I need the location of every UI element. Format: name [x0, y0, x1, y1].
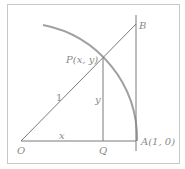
label-y: y	[94, 94, 101, 105]
label-x: x	[59, 130, 65, 141]
label-Q: Q	[99, 145, 107, 156]
label-OP-length: 1	[56, 92, 62, 103]
label-O: O	[17, 145, 25, 156]
label-B: B	[138, 20, 146, 31]
label-P: P(x, y)	[65, 54, 98, 65]
label-A: A(1, 0)	[140, 136, 175, 147]
unit-circle-diagram: B P(x, y) 1 y x O Q A(1, 0)	[0, 0, 185, 169]
